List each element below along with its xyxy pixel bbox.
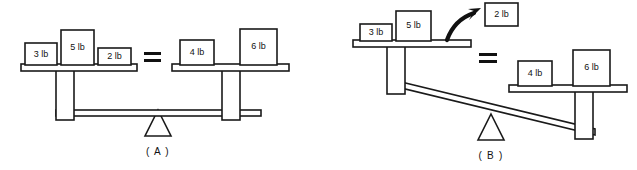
block-2lb-label: 2 lb [494, 9, 509, 19]
right-pan-blocks: 4 lb 6 lb [180, 29, 277, 65]
equals-bar-top [479, 53, 497, 56]
left-support-post [56, 70, 74, 120]
block-3lb-label: 3 lb [369, 27, 384, 37]
balance-diagram: 3 lb 5 lb 2 lb 4 lb 6 lb ( A ) [0, 0, 637, 170]
block-5lb-label: 5 lb [406, 20, 421, 30]
left-support-post [387, 46, 405, 94]
equals-bar-bottom [479, 60, 497, 63]
equals-sign [144, 52, 161, 62]
block-4lb-label: 4 lb [528, 68, 543, 78]
equals-sign [479, 53, 497, 63]
left-pan-blocks: 3 lb 5 lb [360, 11, 431, 41]
curved-removal-arrow [447, 8, 481, 40]
panel-a: 3 lb 5 lb 2 lb 4 lb 6 lb ( A ) [21, 29, 289, 157]
arrow-shaft [447, 13, 474, 40]
left-pan-blocks: 3 lb 5 lb 2 lb [25, 30, 131, 65]
equals-bar-top [144, 52, 161, 55]
block-6lb-label: 6 lb [584, 62, 599, 72]
block-5lb-label: 5 lb [70, 42, 85, 52]
block-3lb-label: 3 lb [34, 49, 49, 59]
panel-b-label: ( B ) [479, 150, 504, 161]
right-support-post [222, 70, 240, 120]
panel-b: 3 lb 5 lb 4 lb 6 lb 2 lb [353, 3, 627, 161]
block-2lb-label: 2 lb [107, 51, 122, 61]
removed-block: 2 lb [485, 3, 518, 26]
panel-a-label: ( A ) [146, 146, 170, 157]
block-6lb-label: 6 lb [251, 41, 266, 51]
right-pan-blocks: 4 lb 6 lb [518, 50, 610, 86]
right-support-post [575, 91, 593, 139]
equals-bar-bottom [144, 59, 161, 62]
block-4lb-label: 4 lb [190, 47, 205, 57]
figure-root: 3 lb 5 lb 2 lb 4 lb 6 lb ( A ) [0, 0, 637, 170]
fulcrum-triangle [478, 114, 504, 140]
